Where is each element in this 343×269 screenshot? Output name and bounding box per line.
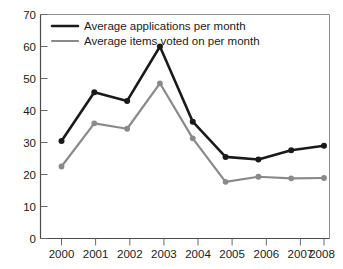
- data-point[interactable]: [288, 175, 294, 181]
- y-tick-0: 0: [30, 233, 48, 245]
- x-tick-label: 2002: [117, 248, 143, 260]
- y-tick-label: 40: [23, 105, 36, 117]
- data-point[interactable]: [124, 126, 130, 132]
- data-point[interactable]: [59, 164, 65, 170]
- data-point[interactable]: [321, 143, 327, 149]
- series-2: [59, 80, 327, 184]
- legend-item-label: Average items voted on per month: [84, 35, 260, 47]
- y-tick-label: 50: [23, 73, 36, 85]
- data-point[interactable]: [223, 179, 229, 185]
- x-tick-2006: 2006: [254, 239, 280, 261]
- series-line: [62, 47, 325, 160]
- data-point[interactable]: [255, 174, 261, 180]
- x-tick-2002: 2002: [117, 239, 143, 261]
- x-tick-2008: 2008: [309, 239, 335, 261]
- data-point[interactable]: [91, 89, 97, 95]
- chart-legend: Average applications per month Average i…: [52, 20, 260, 47]
- x-tick-2004: 2004: [185, 239, 211, 261]
- line-chart: 70 60 50 40 30 20: [0, 0, 343, 269]
- series-line: [62, 83, 325, 182]
- data-point[interactable]: [190, 119, 196, 125]
- series-layer: [59, 44, 328, 185]
- y-tick-label: 0: [30, 233, 36, 245]
- x-tick-label: 2000: [49, 248, 75, 260]
- x-tick-label: 2001: [83, 248, 109, 260]
- data-point[interactable]: [223, 154, 229, 160]
- y-tick-30: 30: [23, 137, 47, 149]
- y-tick-label: 30: [23, 137, 36, 149]
- y-axis: 70 60 50 40 30 20: [23, 9, 47, 245]
- data-point[interactable]: [91, 120, 97, 126]
- y-tick-50: 50: [23, 73, 47, 85]
- y-tick-10: 10: [23, 201, 47, 213]
- y-tick-label: 60: [23, 41, 36, 53]
- y-tick-label: 20: [23, 169, 36, 181]
- data-point[interactable]: [59, 138, 65, 144]
- x-tick-label: 2004: [185, 248, 211, 260]
- x-tick-label: 2006: [254, 248, 280, 260]
- x-tick-2000: 2000: [49, 239, 75, 261]
- legend-item-1: Average items voted on per month: [52, 35, 260, 47]
- y-tick-label: 70: [23, 9, 36, 21]
- data-point[interactable]: [157, 80, 163, 86]
- x-axis: 2000 2001 2002 2003 2004 2005: [49, 239, 335, 261]
- series-1: [59, 44, 328, 163]
- x-tick-2003: 2003: [151, 239, 177, 261]
- legend-item-0: Average applications per month: [52, 20, 246, 32]
- data-point[interactable]: [124, 98, 130, 104]
- chart-canvas: 70 60 50 40 30 20: [0, 0, 343, 269]
- data-point[interactable]: [288, 147, 294, 153]
- y-tick-20: 20: [23, 169, 47, 181]
- x-tick-2005: 2005: [219, 239, 245, 261]
- x-tick-label: 2008: [309, 248, 335, 260]
- y-tick-label: 10: [23, 201, 36, 213]
- y-tick-40: 40: [23, 105, 47, 117]
- y-tick-60: 60: [23, 41, 47, 53]
- y-tick-70: 70: [23, 9, 47, 21]
- x-tick-2001: 2001: [83, 239, 109, 261]
- data-point[interactable]: [321, 175, 327, 181]
- data-point[interactable]: [190, 135, 196, 141]
- legend-item-label: Average applications per month: [84, 20, 246, 32]
- x-tick-label: 2003: [151, 248, 177, 260]
- x-tick-label: 2005: [219, 248, 245, 260]
- data-point[interactable]: [255, 156, 261, 162]
